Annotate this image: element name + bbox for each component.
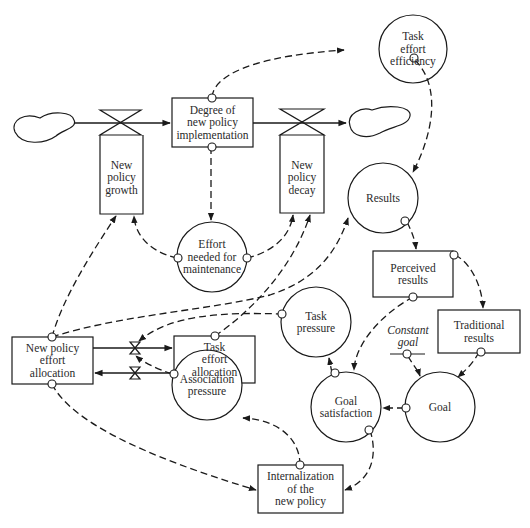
- label-internalization-of-new-policy: Internalization of the new policy: [258, 465, 343, 513]
- label-results: Results: [348, 163, 418, 233]
- label-new-policy-effort-allocation: New policy effort allocation: [12, 337, 93, 384]
- label-new-policy-growth: New policy growth: [100, 150, 143, 205]
- label-perceived-results: Perceived results: [373, 251, 453, 297]
- label-task-effort-efficiency: Task effort efficiency: [379, 15, 447, 83]
- label-goal: Goal: [405, 372, 475, 442]
- label-degree-of-new-policy-implementation: Degree of new policy implementation: [172, 98, 253, 147]
- label-constant-goal: Constant goal: [378, 322, 438, 350]
- label-new-policy-decay: New policy decay: [280, 150, 324, 205]
- label-effort-needed-for-maintenance: Effort needed for maintenance: [177, 222, 247, 292]
- source-cloud-icon: [14, 113, 75, 142]
- label-traditional-results: Traditional results: [438, 310, 520, 353]
- sink-cloud-icon: [349, 107, 410, 137]
- label-association-pressure: Association pressure: [172, 350, 242, 420]
- label-goal-satisfaction: Goal satisfaction: [311, 372, 381, 442]
- decay-valve-icon: [280, 109, 324, 135]
- label-task-pressure: Task pressure: [281, 287, 351, 357]
